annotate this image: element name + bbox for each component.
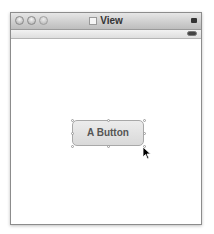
toolbar-toggle-button[interactable] bbox=[187, 31, 197, 36]
mouse-cursor-icon bbox=[142, 146, 152, 160]
window-title: View bbox=[11, 14, 201, 28]
resize-handle-right[interactable] bbox=[143, 132, 146, 135]
resize-handle-bottom-left[interactable] bbox=[71, 145, 74, 148]
a-button[interactable]: A Button bbox=[72, 120, 144, 146]
title-bar[interactable]: View bbox=[11, 13, 201, 30]
resize-handle-top[interactable] bbox=[107, 119, 110, 122]
resize-handle-left[interactable] bbox=[71, 132, 74, 135]
toolbar bbox=[11, 30, 201, 39]
view-canvas[interactable]: A Button bbox=[11, 39, 201, 224]
resize-handle-top-right[interactable] bbox=[143, 119, 146, 122]
resize-handle-top-left[interactable] bbox=[71, 119, 74, 122]
app-window: View A Button bbox=[10, 12, 202, 225]
window-title-text: View bbox=[100, 15, 123, 26]
fullscreen-icon[interactable] bbox=[191, 18, 197, 23]
resize-handle-bottom[interactable] bbox=[107, 145, 110, 148]
document-icon bbox=[89, 17, 97, 25]
